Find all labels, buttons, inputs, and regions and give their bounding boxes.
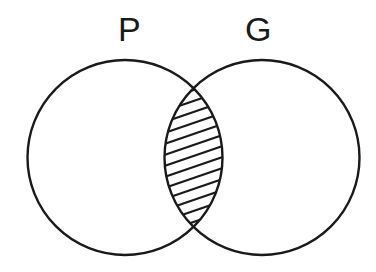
set-p-label: P [118,12,141,46]
set-g-label: G [245,12,271,46]
venn-diagram: P G [0,0,376,272]
venn-svg [0,0,376,272]
set-g-circle [165,60,360,255]
